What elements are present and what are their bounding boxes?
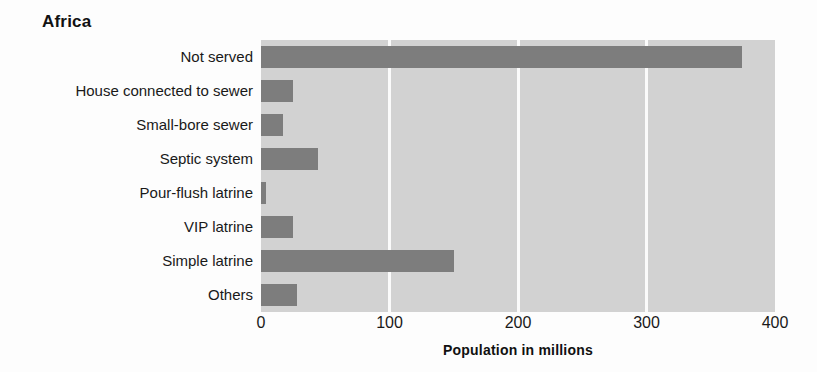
bar bbox=[261, 250, 454, 272]
x-tick-label: 0 bbox=[257, 314, 266, 332]
category-label: Small-bore sewer bbox=[0, 108, 253, 142]
bar-row bbox=[261, 40, 775, 74]
x-tick-label: 200 bbox=[505, 314, 532, 332]
bar-chart-figure: Africa Not servedHouse connected to sewe… bbox=[0, 0, 817, 372]
bar bbox=[261, 216, 293, 238]
bar-row bbox=[261, 244, 775, 278]
category-label: Pour-flush latrine bbox=[0, 176, 253, 210]
category-label: House connected to sewer bbox=[0, 74, 253, 108]
plot-area bbox=[261, 40, 775, 312]
bar bbox=[261, 114, 283, 136]
category-label: Simple latrine bbox=[0, 244, 253, 278]
x-axis-title: Population in millions bbox=[261, 342, 775, 358]
chart-title: Africa bbox=[42, 12, 91, 32]
bar bbox=[261, 46, 742, 68]
bar-row bbox=[261, 108, 775, 142]
value-axis: 0100200300400 bbox=[261, 314, 775, 338]
category-axis: Not servedHouse connected to sewerSmall-… bbox=[0, 40, 253, 312]
bar bbox=[261, 80, 293, 102]
bar-series bbox=[261, 40, 775, 312]
bar-row bbox=[261, 176, 775, 210]
bar-row bbox=[261, 210, 775, 244]
category-label: Others bbox=[0, 278, 253, 312]
bar bbox=[261, 148, 318, 170]
bar bbox=[261, 284, 297, 306]
bar-row bbox=[261, 74, 775, 108]
category-label: Septic system bbox=[0, 142, 253, 176]
category-label: Not served bbox=[0, 40, 253, 74]
x-tick-label: 400 bbox=[762, 314, 789, 332]
bar-row bbox=[261, 278, 775, 312]
bar-row bbox=[261, 142, 775, 176]
bar bbox=[261, 182, 266, 204]
category-label: VIP latrine bbox=[0, 210, 253, 244]
x-tick-label: 100 bbox=[376, 314, 403, 332]
x-tick-label: 300 bbox=[633, 314, 660, 332]
